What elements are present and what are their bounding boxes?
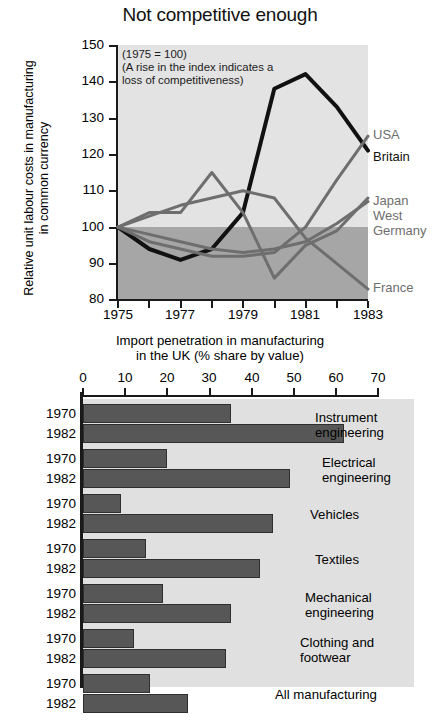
bar-year-label: 1982 [32,651,76,666]
bar-year-label: 1982 [32,696,76,711]
bar-textiles-1970 [83,539,146,558]
bar-textiles-1982 [83,559,260,578]
bar-category-line: All manufacturing [275,687,377,702]
bar-year-label: 1970 [32,676,76,691]
bar-category-line: Clothing and [300,635,374,650]
bar-year-label: 1982 [32,606,76,621]
bar-all-manufacturing-1970 [83,674,150,693]
line-chart: Not competitive enough Relative unit lab… [0,0,440,350]
bar-clothing-and-footwear-1970 [83,629,134,648]
bar-x-tick-label-50: 50 [274,370,314,385]
bar-title-line-1: Import penetration in manufacturing [116,333,324,348]
bar-category-label-electrical-engineering: Electricalengineering [322,456,391,485]
series-label-germany: Germany [373,223,426,238]
bar-x-tick-label-30: 30 [189,370,229,385]
bar-category-line: engineering [315,425,384,440]
line-series-canvas [0,0,440,350]
bar-category-label-mechanical-engineering: Mechanicalengineering [305,591,374,620]
bar-x-tick-label-20: 20 [147,370,187,385]
bar-x-tick-50 [293,388,295,395]
bar-year-label: 1982 [32,471,76,486]
page-footer [0,716,440,728]
bar-vehicles-1970 [83,494,121,513]
bar-x-tick-label-0: 0 [63,370,103,385]
bar-x-tick-0 [82,388,84,395]
series-label-usa: USA [373,127,400,142]
bar-category-line: Instrument [315,410,377,425]
bar-year-label: 1970 [32,496,76,511]
bar-mechanical-engineering-1970 [83,584,163,603]
bar-electrical-engineering-1970 [83,449,167,468]
series-label-britain: Britain [373,149,410,164]
line-series-britain [118,74,368,260]
bar-category-label-instrument-engineering: Instrumentengineering [315,411,384,440]
bar-year-label: 1970 [32,406,76,421]
bar-instrument-engineering-1982 [83,424,344,443]
bar-category-label-all-manufacturing: All manufacturing [275,688,377,703]
bar-x-tick-30 [209,388,211,395]
bar-clothing-and-footwear-1982 [83,649,226,668]
bar-x-tick-label-60: 60 [316,370,356,385]
series-label-france: France [373,280,413,295]
bar-category-line: engineering [305,605,374,620]
bar-category-line: Textiles [315,552,359,567]
bar-year-label: 1982 [32,516,76,531]
bar-year-label: 1970 [32,451,76,466]
line-series-usa [118,136,368,256]
bar-x-tick-70 [377,388,379,395]
bar-chart-title: Import penetration in manufacturing in t… [0,333,440,364]
bar-x-tick-20 [166,388,168,395]
bar-chart: 0 10 20 30 40 50 60 70 19701982Instrumen… [0,370,440,728]
bar-category-label-clothing-and-footwear: Clothing andfootwear [300,636,374,665]
bar-mechanical-engineering-1982 [83,604,231,623]
bar-vehicles-1982 [83,514,273,533]
bar-category-line: footwear [300,650,351,665]
bar-category-label-vehicles: Vehicles [310,508,359,523]
bar-x-tick-label-40: 40 [232,370,272,385]
bar-category-line: Mechanical [305,590,372,605]
bar-year-label: 1970 [32,541,76,556]
figure-page: Not competitive enough Relative unit lab… [0,0,440,728]
series-label-west: West [373,208,402,223]
bar-title-line-2: in the UK (% share by value) [136,348,304,363]
bar-year-label: 1982 [32,426,76,441]
bar-category-line: Vehicles [310,507,359,522]
bar-category-line: engineering [322,470,391,485]
bar-year-label: 1982 [32,561,76,576]
bar-x-tick-10 [124,388,126,395]
bar-electrical-engineering-1982 [83,469,290,488]
bar-x-tick-40 [251,388,253,395]
bar-x-tick-60 [335,388,337,395]
bar-x-axis [80,395,379,397]
bar-year-label: 1970 [32,631,76,646]
bar-x-tick-label-70: 70 [358,370,398,385]
bar-category-label-textiles: Textiles [315,553,359,568]
bar-x-tick-label-10: 10 [105,370,145,385]
bar-category-line: Electrical [322,455,376,470]
bar-all-manufacturing-1982 [83,694,188,713]
bar-instrument-engineering-1970 [83,404,231,423]
bar-year-label: 1970 [32,586,76,601]
series-label-japan: Japan [373,193,408,208]
